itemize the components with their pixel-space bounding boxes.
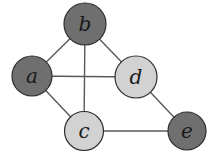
node-label: b	[79, 12, 92, 36]
node-label: e	[181, 119, 193, 143]
node-label: c	[78, 119, 89, 143]
node-b: b	[64, 3, 106, 45]
node-a: a	[12, 56, 52, 96]
graph-diagram: abcde	[0, 0, 214, 158]
node-d: d	[115, 56, 157, 98]
edges-group	[32, 24, 187, 131]
node-c: c	[65, 112, 104, 151]
node-label: a	[26, 64, 38, 88]
node-e: e	[168, 112, 206, 150]
node-label: d	[130, 65, 143, 89]
